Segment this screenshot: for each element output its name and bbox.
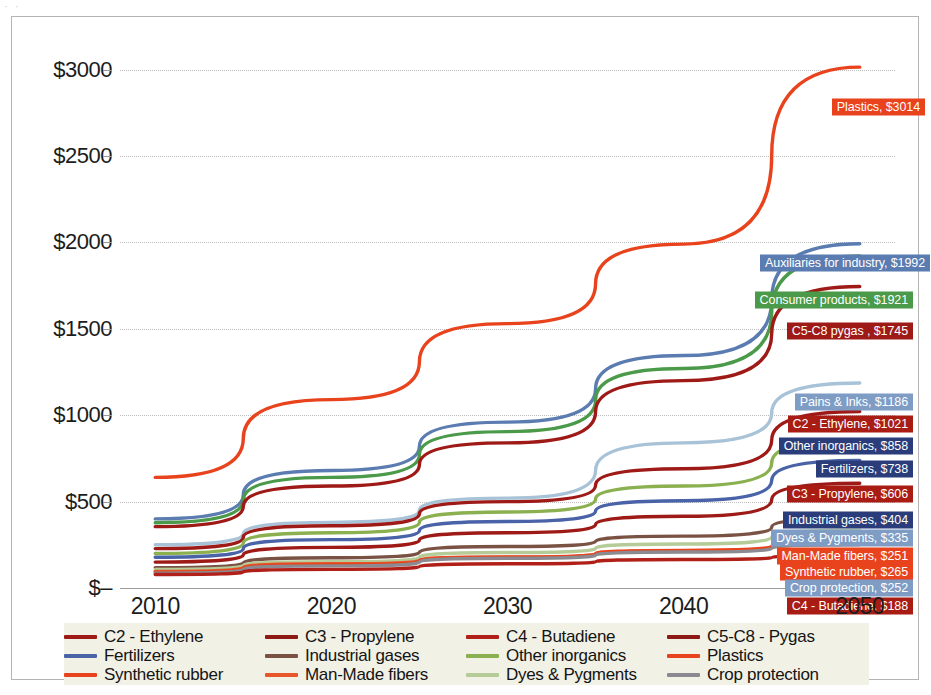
series-data-label: Consumer products, $1921 — [755, 292, 913, 309]
series-data-label: C2 - Ethylene, $1021 — [788, 416, 913, 433]
legend-item[interactable]: C4 - Butadiene — [466, 627, 667, 647]
legend-item-label: C5-C8 - Pygas — [707, 627, 815, 647]
legend-item-label: C2 - Ethylene — [104, 627, 203, 647]
x-axis: 20102020203020402050 — [120, 593, 895, 627]
legend-color-swatch — [64, 635, 97, 639]
legend-item[interactable]: C5-C8 - Pygas — [667, 627, 868, 647]
series-data-label: C5-C8 pygas , $1745 — [787, 323, 913, 340]
chart-frame: $–$500$1000$1500$2000$2500$3000 Plastics… — [11, 16, 919, 680]
legend-item-label: Crop protection — [707, 665, 819, 685]
series-data-label: Industrial gases, $404 — [783, 512, 913, 529]
legend-item-label: Fertilizers — [104, 646, 174, 666]
legend-item[interactable]: Crop protection — [667, 665, 868, 685]
series-data-label: Pains & Inks, $1186 — [795, 394, 913, 411]
series-data-label: Synthetic rubber, $265 — [780, 564, 913, 581]
legend-row: C2 - EthyleneC3 - PropyleneC4 - Butadien… — [64, 627, 869, 646]
y-axis-tick-mark — [103, 502, 112, 503]
legend-item-label: Dyes & Pygments — [506, 665, 637, 685]
series-data-label: Auxiliaries for industry, $1992 — [760, 255, 930, 272]
legend-color-swatch — [466, 673, 499, 677]
data-label-group: Plastics, $3014Auxiliaries for industry,… — [120, 35, 895, 588]
legend-item[interactable]: C2 - Ethylene — [64, 627, 265, 647]
legend-item-label: Synthetic rubber — [104, 665, 223, 685]
legend-item[interactable]: Man-Made fibers — [265, 665, 466, 685]
series-data-label: Plastics, $3014 — [832, 99, 925, 116]
legend-item-label: Other inorganics — [506, 646, 626, 666]
legend-item[interactable]: Other inorganics — [466, 646, 667, 666]
series-data-label: Other inorganics, $858 — [779, 438, 913, 455]
series-data-label: Dyes & Pygments, $335 — [771, 530, 913, 547]
scan-edge-artifact: · · — [0, 0, 931, 14]
legend-row: Synthetic rubberMan-Made fibersDyes & Py… — [64, 665, 869, 684]
legend-item[interactable]: Synthetic rubber — [64, 665, 265, 685]
legend-item-label: Plastics — [707, 646, 763, 666]
x-axis-tick-label: 2030 — [483, 593, 532, 620]
legend-color-swatch — [265, 654, 298, 658]
series-data-label: Fertilizers, $738 — [816, 461, 913, 478]
legend-item-label: Man-Made fibers — [305, 665, 428, 685]
legend-color-swatch — [667, 654, 700, 658]
legend-item[interactable]: Dyes & Pygments — [466, 665, 667, 685]
legend-color-swatch — [265, 673, 298, 677]
y-axis-tick-mark — [103, 329, 112, 330]
legend-item[interactable]: C3 - Propylene — [265, 627, 466, 647]
series-data-label: C3 - Propylene, $606 — [787, 486, 913, 503]
legend-row: FertilizersIndustrial gasesOther inorgan… — [64, 646, 869, 665]
legend-item-label: Industrial gases — [305, 646, 419, 666]
legend-color-swatch — [466, 654, 499, 658]
legend-item-label: C3 - Propylene — [305, 627, 414, 647]
legend-item[interactable]: Fertilizers — [64, 646, 265, 666]
y-axis-tick-mark — [103, 415, 112, 416]
legend-item[interactable]: Industrial gases — [265, 646, 466, 666]
plot-area: Plastics, $3014Auxiliaries for industry,… — [120, 35, 895, 588]
legend-item-label: C4 - Butadiene — [506, 627, 615, 647]
legend-color-swatch — [265, 635, 298, 639]
series-data-label: Man-Made fibers, $251 — [777, 548, 913, 565]
x-axis-tick-label: 2020 — [307, 593, 356, 620]
legend-color-swatch — [64, 673, 97, 677]
y-axis-tick-mark — [103, 242, 112, 243]
legend-color-swatch — [667, 635, 700, 639]
legend-color-swatch — [667, 673, 700, 677]
y-axis-tick-mark — [103, 156, 112, 157]
chart-legend: C2 - EthyleneC3 - PropyleneC4 - Butadien… — [64, 623, 869, 685]
x-axis-tick-label: 2050 — [835, 593, 884, 620]
x-axis-tick-label: 2040 — [659, 593, 708, 620]
legend-color-swatch — [466, 635, 499, 639]
x-axis-tick-label: 2010 — [131, 593, 180, 620]
y-axis-tick-mark — [103, 70, 112, 71]
y-axis: $–$500$1000$1500$2000$2500$3000 — [12, 35, 112, 588]
legend-item[interactable]: Plastics — [667, 646, 868, 666]
legend-color-swatch — [64, 654, 97, 658]
y-axis-tick-label: $– — [89, 575, 112, 601]
gridline — [120, 588, 895, 589]
